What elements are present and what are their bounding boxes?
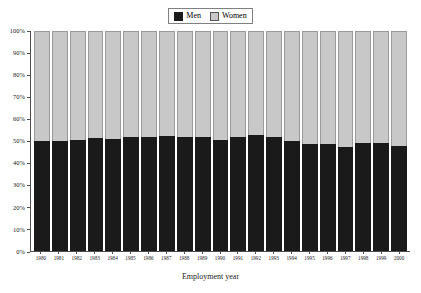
legend-entry-men: Men xyxy=(174,12,201,21)
x-axis-tick-mark xyxy=(255,252,256,254)
bar-column[interactable] xyxy=(195,31,211,251)
y-axis-tick-label: 20% xyxy=(13,205,27,212)
x-axis-tick-mark xyxy=(94,252,95,254)
bar-column[interactable] xyxy=(284,31,300,251)
bar-segment-men[interactable] xyxy=(123,137,139,251)
x-axis-tick: 1984 xyxy=(105,252,121,266)
bar-segment-women[interactable] xyxy=(52,31,68,141)
bar-segment-women[interactable] xyxy=(284,31,300,141)
bar-segment-women[interactable] xyxy=(177,31,193,137)
x-axis: 1980198119821983198419851986198719881989… xyxy=(30,252,410,266)
legend-entry-women: Women xyxy=(210,12,247,21)
x-axis-tick-label: 1993 xyxy=(269,256,279,261)
bar-segment-women[interactable] xyxy=(159,31,175,136)
bar-segment-women[interactable] xyxy=(213,31,229,140)
bar-segment-women[interactable] xyxy=(320,31,336,144)
bar-segment-women[interactable] xyxy=(266,31,282,137)
bar-segment-women[interactable] xyxy=(88,31,104,138)
bar-segment-men[interactable] xyxy=(284,141,300,251)
bar-segment-women[interactable] xyxy=(355,31,371,143)
bar-column[interactable] xyxy=(159,31,175,251)
x-axis-tick-label: 1982 xyxy=(72,256,82,261)
bar-segment-women[interactable] xyxy=(338,31,354,147)
x-axis-tick: 1994 xyxy=(284,252,300,266)
x-axis-tick-label: 1995 xyxy=(304,256,314,261)
legend-label-women: Women xyxy=(222,12,247,20)
x-axis-tick-label: 1990 xyxy=(215,256,225,261)
x-axis-tick: 1987 xyxy=(158,252,174,266)
x-axis-tick-label: 1998 xyxy=(358,256,368,261)
x-axis-tick-mark xyxy=(237,252,238,254)
bar-segment-men[interactable] xyxy=(34,141,50,251)
bar-segment-women[interactable] xyxy=(123,31,139,137)
x-axis-tick-mark xyxy=(363,252,364,254)
x-axis-tick-mark xyxy=(399,252,400,254)
x-axis-tick: 1998 xyxy=(355,252,371,266)
bar-segment-women[interactable] xyxy=(302,31,318,144)
bar-column[interactable] xyxy=(88,31,104,251)
bar-column[interactable] xyxy=(141,31,157,251)
bar-segment-men[interactable] xyxy=(70,140,86,251)
bar-segment-men[interactable] xyxy=(159,136,175,251)
bar-column[interactable] xyxy=(248,31,264,251)
y-axis-tick-label: 70% xyxy=(13,94,27,101)
bar-segment-men[interactable] xyxy=(230,137,246,251)
bar-column[interactable] xyxy=(373,31,389,251)
bar-column[interactable] xyxy=(70,31,86,251)
bar-column[interactable] xyxy=(213,31,229,251)
bar-column[interactable] xyxy=(266,31,282,251)
bar-segment-men[interactable] xyxy=(302,144,318,251)
bar-segment-women[interactable] xyxy=(70,31,86,140)
bar-segment-men[interactable] xyxy=(338,147,354,251)
bar-segment-women[interactable] xyxy=(248,31,264,135)
bar-segment-men[interactable] xyxy=(105,139,121,251)
bar-column[interactable] xyxy=(177,31,193,251)
bar-column[interactable] xyxy=(355,31,371,251)
bar-segment-women[interactable] xyxy=(34,31,50,141)
bar-column[interactable] xyxy=(34,31,50,251)
bar-segment-men[interactable] xyxy=(266,137,282,251)
legend-swatch-men-icon xyxy=(174,12,183,21)
bar-segment-men[interactable] xyxy=(52,141,68,251)
bar-column[interactable] xyxy=(105,31,121,251)
bar-column[interactable] xyxy=(230,31,246,251)
x-axis-tick-label: 1985 xyxy=(125,256,135,261)
chart-legend: Men Women xyxy=(0,8,421,24)
bar-segment-women[interactable] xyxy=(141,31,157,137)
x-axis-tick-label: 1997 xyxy=(340,256,350,261)
bar-segment-men[interactable] xyxy=(141,137,157,251)
bar-segment-men[interactable] xyxy=(355,143,371,251)
y-axis-tick-label: 40% xyxy=(13,160,27,167)
x-axis-tick-mark xyxy=(184,252,185,254)
legend-swatch-women-icon xyxy=(210,12,219,21)
bar-segment-men[interactable] xyxy=(320,144,336,251)
bar-column[interactable] xyxy=(320,31,336,251)
bar-segment-women[interactable] xyxy=(230,31,246,137)
bar-column[interactable] xyxy=(52,31,68,251)
bar-column[interactable] xyxy=(302,31,318,251)
x-axis-tick: 1991 xyxy=(230,252,246,266)
x-axis-tick-mark xyxy=(58,252,59,254)
bar-segment-men[interactable] xyxy=(88,138,104,251)
bar-segment-men[interactable] xyxy=(373,143,389,251)
bar-segment-men[interactable] xyxy=(195,137,211,251)
x-axis-tick-label: 1980 xyxy=(36,256,46,261)
bar-segment-women[interactable] xyxy=(105,31,121,139)
bar-segment-women[interactable] xyxy=(195,31,211,137)
x-axis-tick: 1985 xyxy=(123,252,139,266)
bar-segment-men[interactable] xyxy=(213,140,229,251)
bar-column[interactable] xyxy=(123,31,139,251)
x-axis-title: Employment year xyxy=(0,272,421,281)
x-axis-tick-mark xyxy=(309,252,310,254)
x-axis-tick: 1996 xyxy=(320,252,336,266)
y-axis-tick-label: 0% xyxy=(16,249,27,256)
bar-segment-men[interactable] xyxy=(177,137,193,251)
bar-segment-women[interactable] xyxy=(391,31,407,146)
bar-column[interactable] xyxy=(391,31,407,251)
bar-column[interactable] xyxy=(338,31,354,251)
bar-segment-men[interactable] xyxy=(248,135,264,251)
x-axis-tick-mark xyxy=(381,252,382,254)
bar-segment-men[interactable] xyxy=(391,146,407,251)
bar-segment-women[interactable] xyxy=(373,31,389,143)
legend-label-men: Men xyxy=(186,12,201,20)
